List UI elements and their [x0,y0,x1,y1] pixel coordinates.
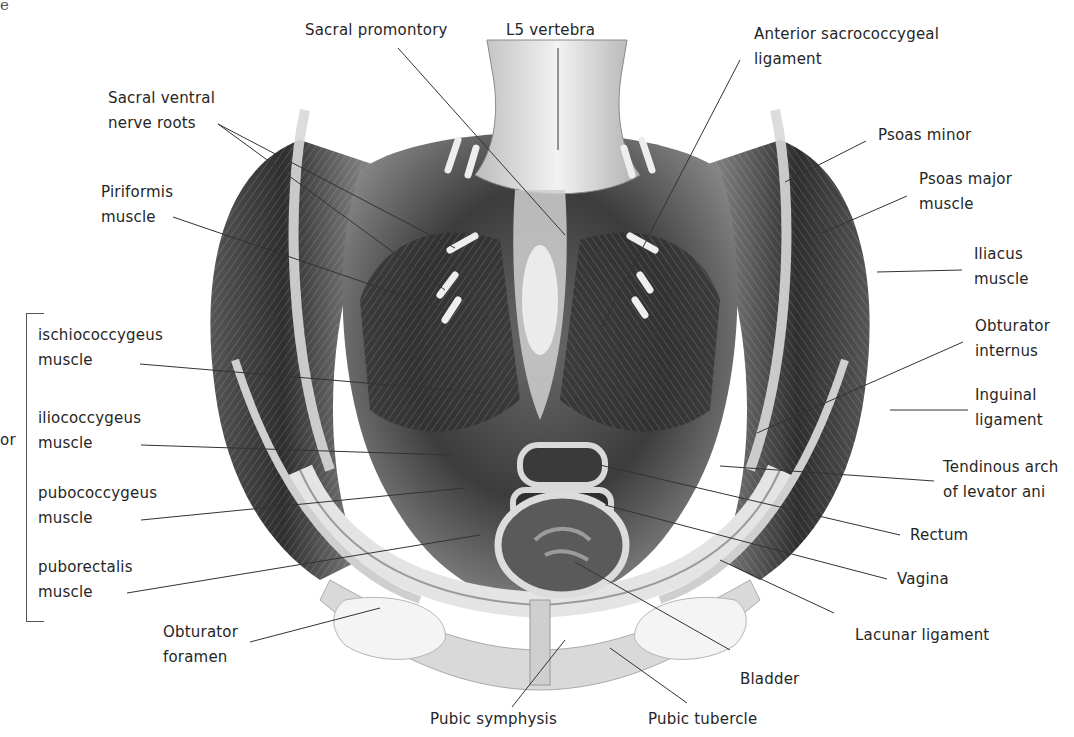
label-obturator-internus: Obturator internus [975,314,1050,364]
label-rectum: Rectum [910,523,968,548]
label-sacral-ventral-nerve-roots: Sacral ventral nerve roots [108,86,215,136]
label-lacunar-ligament: Lacunar ligament [855,623,989,648]
pelvic-floor-diagram: e or ischiococcygeus muscle iliococcygeu… [0,0,1074,737]
clipped-group-label: or [0,428,16,453]
label-piriformis-muscle: Piriformis muscle [101,180,173,230]
label-sacral-promontory: Sacral promontory [305,18,448,43]
label-inguinal-ligament: Inguinal ligament [975,383,1043,433]
label-ischiococcygeus: ischiococcygeus muscle [38,323,163,373]
label-psoas-minor: Psoas minor [878,123,971,148]
label-l5-vertebra: L5 vertebra [506,18,595,43]
label-iliococcygeus: iliococcygeus muscle [38,406,141,456]
label-tendinous-arch-of-levator-ani: Tendinous arch of levator ani [943,455,1058,505]
label-iliacus-muscle: Iliacus muscle [974,242,1029,292]
label-anterior-sacrococcygeal-ligament: Anterior sacrococcygeal ligament [754,22,939,72]
label-bladder: Bladder [740,667,800,692]
label-puborectalis: puborectalis muscle [38,555,133,605]
label-psoas-major-muscle: Psoas major muscle [919,167,1012,217]
label-pubic-symphysis: Pubic symphysis [430,707,557,732]
label-pubococcygeus: pubococcygeus muscle [38,481,157,531]
label-vagina: Vagina [897,567,949,592]
label-pubic-tubercle: Pubic tubercle [648,707,757,732]
clipped-caption-text: e [0,0,9,14]
label-obturator-foramen: Obturator foramen [163,620,238,670]
